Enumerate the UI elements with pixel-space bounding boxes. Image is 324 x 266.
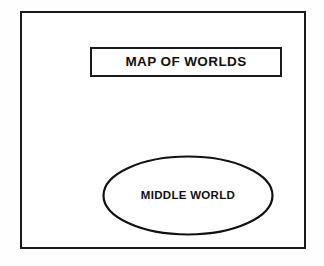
- page-title: MAP OF WORLDS: [125, 55, 246, 69]
- title-box: MAP OF WORLDS: [90, 47, 282, 77]
- diagram-canvas: MAP OF WORLDS MIDDLE WORLD: [0, 0, 324, 266]
- map-frame: MAP OF WORLDS MIDDLE WORLD: [20, 11, 306, 249]
- node-label-middle-world: MIDDLE WORLD: [102, 155, 274, 236]
- node-middle-world[interactable]: MIDDLE WORLD: [102, 155, 274, 236]
